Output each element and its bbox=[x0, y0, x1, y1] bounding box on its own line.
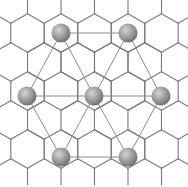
honeycomb-edge bbox=[178, 131, 188, 139]
honeycomb-edge bbox=[95, 159, 112, 169]
honeycomb-edge bbox=[145, 14, 162, 24]
honeycomb-edge bbox=[28, 130, 45, 140]
honeycomb-edge bbox=[44, 14, 61, 24]
honeycomb-edge bbox=[11, 43, 28, 53]
honeycomb-edge bbox=[0, 131, 11, 139]
atom-sphere-middle-right bbox=[152, 87, 171, 106]
honeycomb-edge bbox=[178, 15, 188, 23]
honeycomb-edge bbox=[11, 14, 28, 24]
honeycomb-edge bbox=[145, 72, 162, 82]
honeycomb-edge bbox=[178, 101, 188, 109]
honeycomb-edge bbox=[95, 14, 112, 24]
honeycomb-edge bbox=[128, 14, 145, 24]
honeycomb-edge bbox=[78, 130, 95, 140]
atom-sphere-middle-left bbox=[18, 87, 37, 106]
honeycomb-edge bbox=[128, 43, 145, 53]
honeycomb-edge bbox=[162, 72, 179, 82]
honeycomb-edge bbox=[145, 159, 162, 169]
honeycomb-superlattice-diagram bbox=[0, 0, 188, 187]
honeycomb-edge bbox=[111, 101, 128, 111]
honeycomb-edge bbox=[0, 15, 11, 23]
honeycomb-edge bbox=[162, 130, 179, 140]
atom-sphere-top-left bbox=[52, 24, 71, 43]
honeycomb-edge bbox=[178, 73, 188, 81]
honeycomb-edge bbox=[178, 159, 188, 167]
honeycomb-edge bbox=[11, 159, 28, 169]
honeycomb-edge bbox=[0, 101, 11, 109]
honeycomb-edge bbox=[78, 43, 95, 53]
honeycomb-edge bbox=[111, 14, 128, 24]
atom-sphere-bottom-right bbox=[119, 148, 138, 167]
honeycomb-edge bbox=[128, 72, 145, 82]
honeycomb-edge bbox=[0, 73, 11, 81]
honeycomb-edge bbox=[78, 72, 95, 82]
honeycomb-edge bbox=[0, 43, 11, 51]
honeycomb-edge bbox=[78, 14, 95, 24]
honeycomb-edge bbox=[11, 72, 28, 82]
honeycomb-edge bbox=[28, 159, 45, 169]
honeycomb-edge bbox=[145, 43, 162, 53]
honeycomb-edge bbox=[162, 43, 179, 53]
honeycomb-edge bbox=[0, 159, 11, 167]
honeycomb-edge bbox=[11, 130, 28, 140]
honeycomb-edge bbox=[61, 43, 78, 53]
honeycomb-edge bbox=[162, 14, 179, 24]
honeycomb-edge bbox=[28, 14, 45, 24]
honeycomb-edge bbox=[44, 101, 61, 111]
honeycomb-edge bbox=[95, 43, 112, 53]
honeycomb-edge bbox=[61, 101, 78, 111]
atom-sphere-bottom-left bbox=[52, 148, 71, 167]
honeycomb-edge bbox=[61, 14, 78, 24]
honeycomb-edge bbox=[61, 72, 78, 82]
atom-sphere-center bbox=[85, 87, 104, 106]
honeycomb-edge bbox=[44, 72, 61, 82]
honeycomb-edge bbox=[162, 159, 179, 169]
honeycomb-edge bbox=[145, 130, 162, 140]
atom-sphere-top-right bbox=[119, 24, 138, 43]
honeycomb-edge bbox=[95, 130, 112, 140]
honeycomb-edge bbox=[28, 43, 45, 53]
honeycomb-edge bbox=[178, 43, 188, 51]
honeycomb-edge bbox=[78, 159, 95, 169]
honeycomb-edge bbox=[128, 101, 145, 111]
honeycomb-edge bbox=[111, 72, 128, 82]
